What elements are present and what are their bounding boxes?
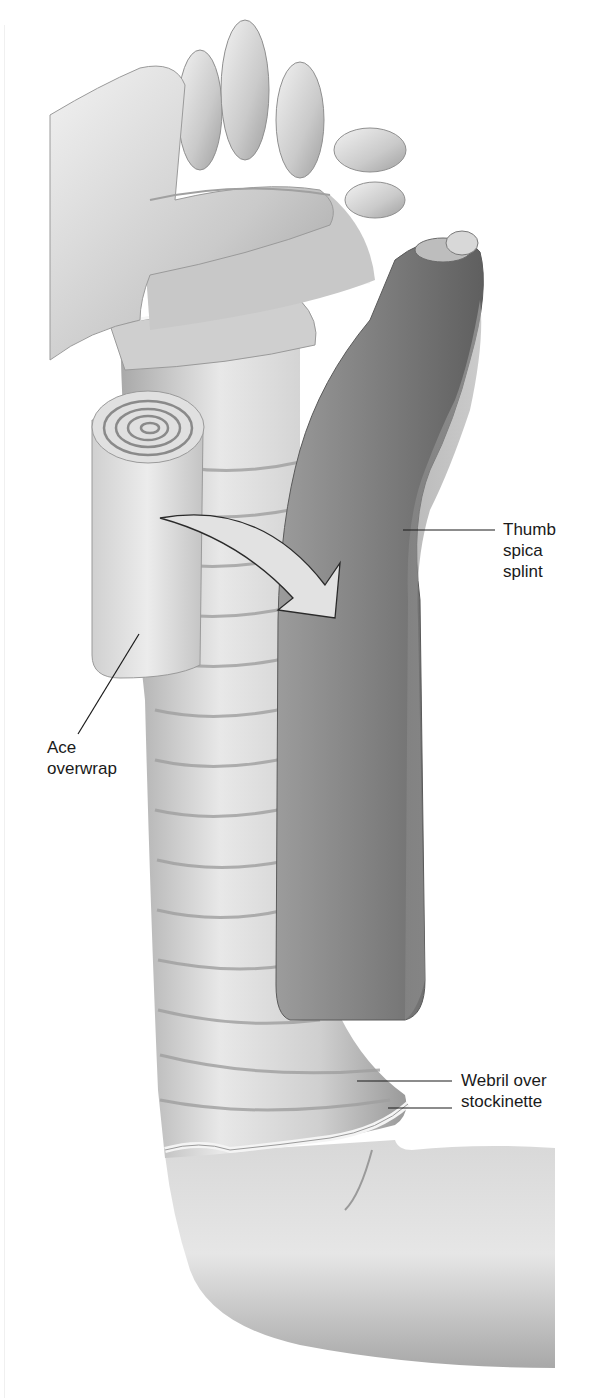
label-line: overwrap [47,758,117,779]
label-line: splint [503,561,556,582]
label-line: Webril over [461,1070,547,1091]
label-webril-over-stockinette: Webril over stockinette [461,1070,547,1112]
label-line: stockinette [461,1091,547,1112]
thumb-spica-splint [276,231,483,1020]
label-thumb-spica-splint: Thumb spica splint [503,519,556,582]
medical-illustration [0,0,589,1398]
label-line: Thumb [503,519,556,540]
label-line: Ace [47,737,117,758]
label-ace-overwrap: Ace overwrap [47,737,117,779]
ace-bandage-roll [92,391,204,678]
label-line: spica [503,540,556,561]
upper-arm [165,1140,555,1368]
